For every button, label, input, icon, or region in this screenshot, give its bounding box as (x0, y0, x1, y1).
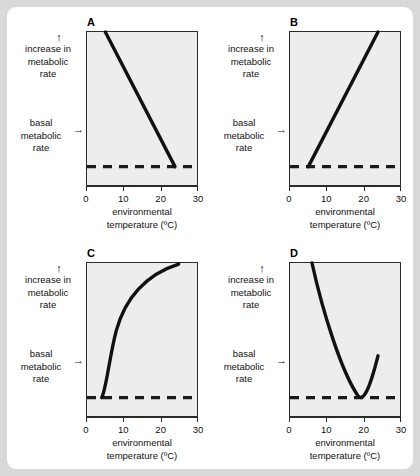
x-tick-label-10-d: 10 (321, 424, 332, 435)
x-tick-20-b (364, 186, 365, 191)
basal-rate-arrow-icon: → (73, 355, 84, 366)
basal-label-line3: rate (9, 373, 73, 386)
basal-label-line1: basal (9, 348, 73, 361)
panel-c: C ↑ increase in metabolic rate basal met… (7, 238, 210, 469)
x-tick-label-10-c: 10 (118, 424, 129, 435)
x-axis-title-line2-a: temperature (ºC) (69, 219, 215, 232)
x-tick-label-0-b: 0 (286, 193, 291, 204)
x-axis-title-line1-a: environmental (69, 206, 215, 219)
x-tick-0-c (86, 417, 87, 422)
increase-label-line2: metabolic (218, 56, 284, 69)
x-tick-10-c (123, 417, 124, 422)
increase-label-line1: increase in (15, 274, 81, 287)
x-tick-0-d (289, 417, 290, 422)
increase-label-line3: rate (218, 299, 284, 312)
increase-label-line1: increase in (15, 43, 81, 56)
x-axis-title-line2-d: temperature (ºC) (272, 450, 418, 463)
metabolic-rate-curve-d (312, 263, 378, 397)
x-tick-label-30-b: 30 (396, 193, 407, 204)
x-axis-title-line2-c: temperature (ºC) (69, 450, 215, 463)
basal-label-line2: metabolic (212, 130, 276, 143)
x-axis-title-d: environmental temperature (ºC) (272, 437, 418, 462)
basal-rate-label: basal metabolic rate (9, 348, 73, 386)
panel-b: B ↑ increase in metabolic rate basal met… (210, 7, 413, 238)
x-tick-label-20-a: 20 (155, 193, 166, 204)
basal-rate-label: basal metabolic rate (212, 117, 276, 155)
plot-area-d (289, 262, 401, 417)
x-tick-label-20-b: 20 (358, 193, 369, 204)
panel-letter-d: D (290, 247, 298, 259)
x-axis-line-c (86, 417, 198, 418)
x-tick-0-a (86, 186, 87, 191)
x-tick-label-30-d: 30 (396, 424, 407, 435)
plot-svg-c (87, 263, 197, 416)
x-axis-title-line1-c: environmental (69, 437, 215, 450)
x-tick-label-10-b: 10 (321, 193, 332, 204)
x-axis-line-b (289, 186, 401, 187)
metabolic-rate-curve-a (105, 32, 175, 167)
basal-rate-arrow-icon: → (276, 124, 287, 135)
x-tick-label-0-d: 0 (286, 424, 291, 435)
y-axis-up-arrow-icon: ↑ (240, 264, 284, 273)
plot-area-a (86, 31, 198, 186)
x-tick-label-30-a: 30 (193, 193, 204, 204)
x-tick-label-20-c: 20 (155, 424, 166, 435)
y-axis-up-arrow-icon: ↑ (37, 264, 81, 273)
plot-svg-b (290, 32, 400, 185)
x-tick-20-a (161, 186, 162, 191)
basal-rate-arrow-icon: → (73, 124, 84, 135)
x-tick-labels-b: 0 10 20 30 (289, 193, 401, 207)
increase-label-line2: metabolic (15, 287, 81, 300)
basal-label-line2: metabolic (212, 361, 276, 374)
y-axis-up-arrow-icon: ↑ (240, 33, 284, 42)
basal-label-line2: metabolic (9, 361, 73, 374)
increase-label-line3: rate (15, 68, 81, 81)
x-tick-label-10-a: 10 (118, 193, 129, 204)
increase-label-line2: metabolic (15, 56, 81, 69)
plot-area-c (86, 262, 198, 417)
basal-label-line1: basal (212, 117, 276, 130)
basal-label-line3: rate (212, 142, 276, 155)
plot-svg-d (290, 263, 400, 416)
basal-rate-label: basal metabolic rate (212, 348, 276, 386)
panel-d: D ↑ increase in metabolic rate basal met… (210, 238, 413, 469)
x-axis-title-line1-d: environmental (272, 437, 418, 450)
y-axis-up-arrow-icon: ↑ (37, 33, 81, 42)
basal-rate-label: basal metabolic rate (9, 117, 73, 155)
metabolic-rate-curve-b (308, 32, 378, 167)
x-tick-20-d (364, 417, 365, 422)
increase-label-line2: metabolic (218, 287, 284, 300)
plot-svg-a (87, 32, 197, 185)
basal-label-line1: basal (9, 117, 73, 130)
x-tick-labels-c: 0 10 20 30 (86, 424, 198, 438)
basal-label-line2: metabolic (9, 130, 73, 143)
x-axis-line-d (289, 417, 401, 418)
y-axis-increase-label: increase in metabolic rate (15, 274, 81, 312)
panel-letter-a: A (87, 16, 95, 28)
basal-label-line3: rate (9, 142, 73, 155)
x-tick-label-30-c: 30 (193, 424, 204, 435)
x-axis-title-line2-b: temperature (ºC) (272, 219, 418, 232)
figure-card: A ↑ increase in metabolic rate basal met… (7, 7, 413, 469)
basal-rate-arrow-icon: → (276, 355, 287, 366)
x-tick-30-b (400, 186, 401, 191)
x-tick-label-0-a: 0 (83, 193, 88, 204)
y-axis-increase-label: increase in metabolic rate (15, 43, 81, 81)
y-axis-increase-label: increase in metabolic rate (218, 274, 284, 312)
x-tick-30-c (197, 417, 198, 422)
increase-label-line3: rate (218, 68, 284, 81)
basal-label-line3: rate (212, 373, 276, 386)
x-tick-10-d (326, 417, 327, 422)
panel-a: A ↑ increase in metabolic rate basal met… (7, 7, 210, 238)
increase-label-line1: increase in (218, 43, 284, 56)
x-axis-title-a: environmental temperature (ºC) (69, 206, 215, 231)
x-tick-labels-a: 0 10 20 30 (86, 193, 198, 207)
x-axis-title-c: environmental temperature (ºC) (69, 437, 215, 462)
x-tick-30-d (400, 417, 401, 422)
x-tick-label-20-d: 20 (358, 424, 369, 435)
increase-label-line3: rate (15, 299, 81, 312)
x-axis-title-b: environmental temperature (ºC) (272, 206, 418, 231)
metabolic-rate-curve-c (102, 264, 179, 398)
panel-letter-b: B (290, 16, 298, 28)
y-axis-increase-label: increase in metabolic rate (218, 43, 284, 81)
